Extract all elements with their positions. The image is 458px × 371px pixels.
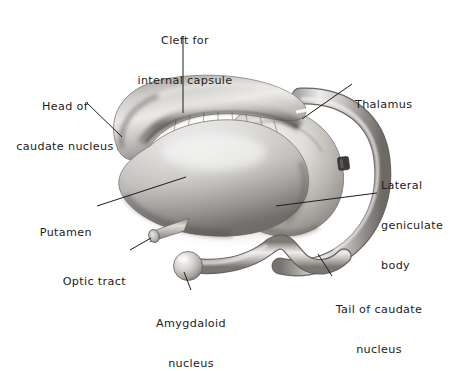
label-amygdaloid-line2: nucleus — [135, 357, 247, 370]
tail-of-caudate-lower-limb — [196, 242, 344, 267]
label-optic-tract: Optic tract — [22, 249, 126, 315]
label-thalamus-line1: Thalamus — [355, 98, 445, 111]
amygdaloid-nucleus-shape — [174, 252, 203, 281]
label-head-caudate-line2: caudate nucleus — [6, 140, 124, 153]
label-optic-tract-line1: Optic tract — [22, 275, 126, 288]
label-head-caudate-line1: Head of — [6, 100, 124, 113]
label-head-of-caudate-nucleus: Head of caudate nucleus — [6, 74, 124, 180]
label-tail-of-caudate-nucleus: Tail of caudate nucleus — [312, 277, 446, 371]
label-cleft-for-internal-capsule: Cleft for internal capsule — [124, 8, 246, 114]
lateral-geniculate-body-shape — [337, 156, 349, 170]
label-amygdaloid-line1: Amygdaloid — [135, 317, 247, 330]
label-lateral-geniculate-line1: Lateral — [381, 179, 457, 192]
label-amygdaloid-nucleus: Amygdaloid nucleus — [135, 291, 247, 371]
label-lateral-geniculate-line2: geniculate — [381, 219, 457, 232]
label-cleft-line1: Cleft for — [124, 34, 246, 47]
label-tail-caudate-line2: nucleus — [312, 343, 446, 356]
label-lateral-geniculate-line3: body — [381, 259, 457, 272]
label-cleft-line2: internal capsule — [124, 74, 246, 87]
leader-optic-tract — [130, 238, 151, 250]
label-tail-caudate-line1: Tail of caudate — [312, 303, 446, 316]
label-putamen-line1: Putamen — [18, 226, 92, 239]
label-thalamus: Thalamus — [355, 72, 445, 138]
